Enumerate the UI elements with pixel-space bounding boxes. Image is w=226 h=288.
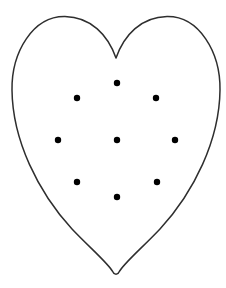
heart-outline: [12, 16, 220, 274]
pattern-dot-bottom: [114, 194, 120, 200]
pattern-dot-left: [55, 137, 61, 143]
figure-canvas: [0, 0, 226, 288]
heart-dot-figure: [0, 0, 226, 288]
pattern-dot-upper-left: [74, 95, 80, 101]
pattern-dot-lower-right: [154, 179, 160, 185]
dots-group: [55, 80, 178, 200]
pattern-dot-lower-left: [74, 179, 80, 185]
pattern-dot-right: [172, 137, 178, 143]
pattern-dot-top: [114, 80, 120, 86]
pattern-dot-upper-right: [153, 95, 159, 101]
pattern-dot-center: [114, 137, 120, 143]
